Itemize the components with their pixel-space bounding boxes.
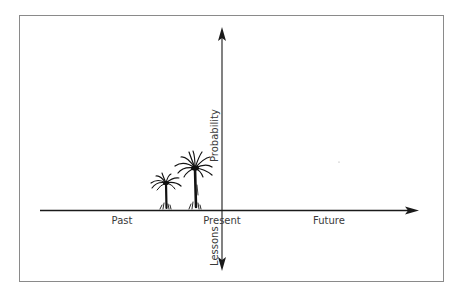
label-present: Present	[203, 216, 241, 226]
palm-tree-small-icon	[151, 173, 181, 209]
label-future: Future	[313, 216, 345, 226]
label-past: Past	[112, 216, 133, 226]
label-lessons: Lessons	[210, 226, 220, 266]
palm-tree-large-icon	[175, 151, 212, 209]
time-axis	[40, 207, 419, 215]
diagram-canvas	[0, 0, 464, 298]
label-probability: Probability	[210, 109, 220, 162]
